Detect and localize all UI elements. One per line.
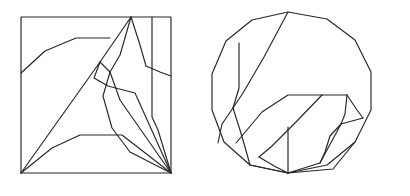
square-figure [21,17,171,173]
square-boundary [21,17,171,173]
circle-figure [212,12,371,173]
square-internal-paths [21,17,171,173]
circle-internal-paths [218,12,363,173]
main-diagonal-upper [233,12,288,108]
upper-left-ridge [21,38,110,73]
apex-right-slope [131,17,171,76]
inner-lower-right-edge [320,118,363,163]
inner-second-diagonal [259,95,322,157]
inner-right-peak [347,95,363,118]
inner-bottom-fan-b [288,124,341,173]
main-diagonal-lower [218,108,233,143]
inner-upper-left-edge [236,95,322,143]
lower-mid-tie [288,142,355,173]
mid-short-strut [100,62,171,173]
left-vertical-rib [233,43,239,108]
lower-left-tie [250,165,288,173]
figure-canvas [0,0,410,196]
inner-right-rib [341,95,347,124]
circle-boundary [212,12,371,173]
apex-left-diagonal [21,17,131,173]
inner-bottom-fan-a [259,157,288,173]
